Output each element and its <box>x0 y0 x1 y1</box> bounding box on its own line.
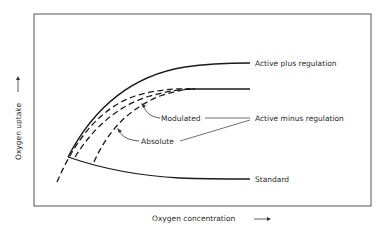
oxygen-uptake-diagram: Active plus regulation Active minus regu… <box>0 0 388 232</box>
label-active-plus-regulation: Active plus regulation <box>255 59 337 68</box>
leader-absolute <box>119 130 139 141</box>
arrowhead-absolute <box>117 128 122 133</box>
curve-absolute <box>94 89 195 162</box>
label-absolute: Absolute <box>141 137 174 146</box>
plot-frame <box>34 14 371 206</box>
leader-modulated <box>143 105 160 118</box>
label-standard: Standard <box>255 175 289 184</box>
curve-modulated <box>57 89 195 182</box>
leader-absolute-to-label <box>180 120 250 141</box>
label-active-minus-regulation: Active minus regulation <box>255 114 344 123</box>
x-axis-label: Oxygen concentration <box>152 214 235 223</box>
right-arrowhead <box>267 217 271 221</box>
label-modulated: Modulated <box>161 114 201 123</box>
y-axis-label: Oxygen uptake <box>14 103 23 160</box>
up-arrowhead <box>16 76 20 80</box>
curve-modulated-inner <box>75 89 195 157</box>
